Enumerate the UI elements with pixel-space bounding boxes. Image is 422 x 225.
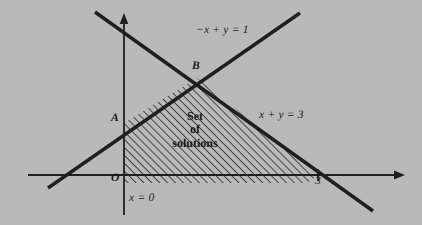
solution-region-caption: Set of solutions <box>151 110 239 150</box>
solution-region-caption-line-3: solutions <box>151 137 239 150</box>
y-axis <box>120 13 129 215</box>
label-line-x-plus-y-equals-3: x + y = 3 <box>259 109 304 122</box>
point-label-b: B <box>192 60 200 73</box>
label-constraint-x-equals-0: x = 0 <box>129 192 154 205</box>
solution-region-caption-line-2: of <box>151 123 239 136</box>
origin-label: O <box>111 172 119 185</box>
label-line-minus-x-plus-y-equals-1: −x + y = 1 <box>196 24 249 37</box>
solution-region-caption-line-1: Set <box>151 110 239 123</box>
inequality-graph-figure: −x + y = 1 x + y = 3 x = 0 A B O 3 Set o… <box>0 0 422 225</box>
point-label-a: A <box>111 112 119 125</box>
x-tick-label-3: 3 <box>315 175 321 188</box>
